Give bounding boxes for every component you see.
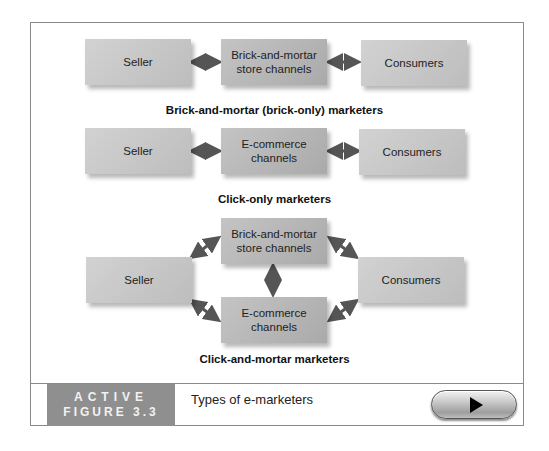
node-label: Consumers xyxy=(382,273,441,287)
caption-click-only: Click-only marketers xyxy=(0,193,549,205)
ecommerce-channel-node: E-commerce channels xyxy=(221,128,327,174)
label-line1: ACTIVE xyxy=(47,390,175,405)
brick-mortar-channel-node-hybrid: Brick-and-mortar store channels xyxy=(221,218,327,264)
play-button[interactable] xyxy=(431,390,517,419)
node-label: Seller xyxy=(123,144,152,158)
seller-node-click-only: Seller xyxy=(85,128,191,174)
node-label: Seller xyxy=(124,273,153,287)
node-label: E-commerce channels xyxy=(241,306,306,334)
node-label-line2: channels xyxy=(251,152,297,164)
label-line2: FIGURE 3.3 xyxy=(47,405,175,420)
node-label: E-commerce channels xyxy=(241,137,306,165)
brick-mortar-channel-node: Brick-and-mortar store channels xyxy=(221,39,327,85)
play-icon xyxy=(470,397,483,413)
node-label-line2: store channels xyxy=(237,63,312,75)
node-label: Consumers xyxy=(383,145,442,159)
active-figure-label: ACTIVE FIGURE 3.3 xyxy=(47,384,175,426)
ecommerce-channel-node-hybrid: E-commerce channels xyxy=(221,297,327,343)
node-label-line2: channels xyxy=(251,321,297,333)
node-label: Brick-and-mortar store channels xyxy=(231,48,317,76)
consumers-node-click-only: Consumers xyxy=(359,129,465,175)
node-label: Consumers xyxy=(385,56,444,70)
node-label-line1: E-commerce xyxy=(241,138,306,150)
consumers-node-click-mortar: Consumers xyxy=(358,257,464,303)
node-label-line1: Brick-and-mortar xyxy=(231,49,317,61)
node-label-line2: store channels xyxy=(237,242,312,254)
seller-node-click-mortar: Seller xyxy=(86,257,192,303)
node-label: Brick-and-mortar store channels xyxy=(231,227,317,255)
seller-node-brick-only: Seller xyxy=(85,39,191,85)
caption-click-mortar: Click-and-mortar marketers xyxy=(0,353,549,365)
caption-brick-only: Brick-and-mortar (brick-only) marketers xyxy=(0,104,549,116)
node-label-line1: Brick-and-mortar xyxy=(231,228,317,240)
figure-title: Types of e-marketers xyxy=(191,392,313,407)
node-label-line1: E-commerce xyxy=(241,307,306,319)
consumers-node-brick-only: Consumers xyxy=(361,40,467,86)
node-label: Seller xyxy=(123,55,152,69)
